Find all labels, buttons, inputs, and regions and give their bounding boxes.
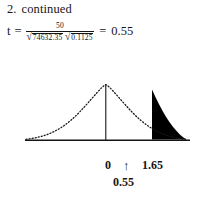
- radical-term-1: √ 74632.35: [27, 33, 63, 42]
- axis-label-critical: 1.65: [142, 158, 163, 173]
- rejection-region-shading: [152, 90, 189, 140]
- worksheet-page: 2.continued t = 50 √ 74632.35 √ 0.1125 =…: [0, 0, 204, 204]
- radical-term-2: √ 0.1125: [65, 33, 93, 42]
- problem-title-text: continued: [22, 2, 72, 16]
- equation-variable: t: [7, 24, 10, 39]
- radical-icon: √: [65, 31, 71, 41]
- equation-fraction: 50 √ 74632.35 √ 0.1125: [26, 22, 95, 42]
- radicand-1: 74632.35: [32, 33, 63, 42]
- equation-equals-sign: =: [14, 24, 21, 39]
- t-statistic-equation: t = 50 √ 74632.35 √ 0.1125 = 0.55: [7, 22, 133, 42]
- radical-icon: √: [27, 31, 33, 41]
- equation-result-value: 0.55: [111, 24, 133, 39]
- up-arrow-icon: ↑: [123, 158, 130, 174]
- equation-result-equals: =: [99, 24, 106, 39]
- fraction-numerator: 50: [56, 22, 64, 31]
- axis-label-zero: 0: [105, 158, 111, 173]
- axis-label-group: 0 ↑ 1.65 0.55: [0, 158, 204, 204]
- page-title: 2.continued: [7, 2, 72, 17]
- axis-label-statistic: 0.55: [113, 175, 134, 190]
- radicand-2: 0.1125: [71, 33, 94, 42]
- problem-number: 2.: [7, 2, 17, 16]
- fraction-denominator: √ 74632.35 √ 0.1125: [26, 32, 95, 42]
- normal-distribution-figure: [0, 55, 204, 150]
